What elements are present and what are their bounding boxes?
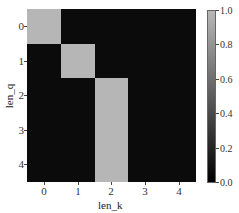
heatmap-cell bbox=[162, 147, 196, 182]
colorbar-tick-mark bbox=[216, 148, 219, 149]
y-tick-mark bbox=[24, 61, 27, 62]
y-tick-3: 3 bbox=[14, 125, 24, 136]
colorbar-tick-mark bbox=[216, 182, 219, 183]
colorbar-tick-mark bbox=[216, 10, 219, 11]
heatmap-cell bbox=[27, 147, 61, 182]
y-tick-mark bbox=[24, 130, 27, 131]
x-axis-label: len_k bbox=[98, 199, 122, 211]
heatmap-cell bbox=[61, 113, 95, 148]
colorbar-tick-0.2: 0.2 bbox=[220, 143, 233, 154]
colorbar-tick-0.8: 0.8 bbox=[220, 39, 233, 50]
heatmap-cell bbox=[128, 147, 162, 182]
colorbar-tick-mark bbox=[216, 113, 219, 114]
heatmap-cell bbox=[162, 113, 196, 148]
heatmap-cell bbox=[61, 44, 95, 79]
colorbar bbox=[207, 10, 216, 183]
colorbar-tick-1.0: 1.0 bbox=[220, 5, 233, 16]
heatmap-cell bbox=[128, 9, 162, 44]
y-tick-1: 1 bbox=[14, 56, 24, 67]
heatmap-cell bbox=[128, 78, 162, 113]
heatmap-cell bbox=[162, 44, 196, 79]
heatmap-cell bbox=[95, 78, 129, 113]
colorbar-tick-0.4: 0.4 bbox=[220, 108, 233, 119]
heatmap-cell bbox=[27, 78, 61, 113]
colorbar-tick-mark bbox=[216, 79, 219, 80]
heatmap-cell bbox=[61, 9, 95, 44]
heatmap-cell bbox=[95, 113, 129, 148]
x-tick-2: 2 bbox=[105, 186, 117, 197]
heatmap-grid bbox=[27, 9, 196, 182]
y-tick-mark bbox=[24, 164, 27, 165]
x-tick-0: 0 bbox=[38, 186, 50, 197]
heatmap-cell bbox=[61, 147, 95, 182]
colorbar-tick-0.0: 0.0 bbox=[220, 177, 233, 188]
heatmap-cell bbox=[162, 78, 196, 113]
y-tick-4: 4 bbox=[14, 159, 24, 170]
heatmap-cell bbox=[27, 9, 61, 44]
heatmap-cell bbox=[128, 113, 162, 148]
colorbar-tick-0.6: 0.6 bbox=[220, 74, 233, 85]
y-axis-label: len_q bbox=[3, 81, 15, 111]
colorbar-tick-mark bbox=[216, 44, 219, 45]
heatmap-cell bbox=[95, 9, 129, 44]
y-tick-2: 2 bbox=[14, 90, 24, 101]
heatmap-cell bbox=[128, 44, 162, 79]
heatmap-cell bbox=[27, 44, 61, 79]
y-tick-0: 0 bbox=[14, 21, 24, 32]
heatmap-cell bbox=[162, 9, 196, 44]
heatmap-cell bbox=[95, 44, 129, 79]
heatmap-cell bbox=[61, 78, 95, 113]
heatmap-cell bbox=[27, 113, 61, 148]
x-tick-1: 1 bbox=[72, 186, 84, 197]
x-tick-4: 4 bbox=[173, 186, 185, 197]
heatmap-cell bbox=[95, 147, 129, 182]
x-tick-3: 3 bbox=[139, 186, 151, 197]
y-tick-mark bbox=[24, 95, 27, 96]
y-tick-mark bbox=[24, 26, 27, 27]
